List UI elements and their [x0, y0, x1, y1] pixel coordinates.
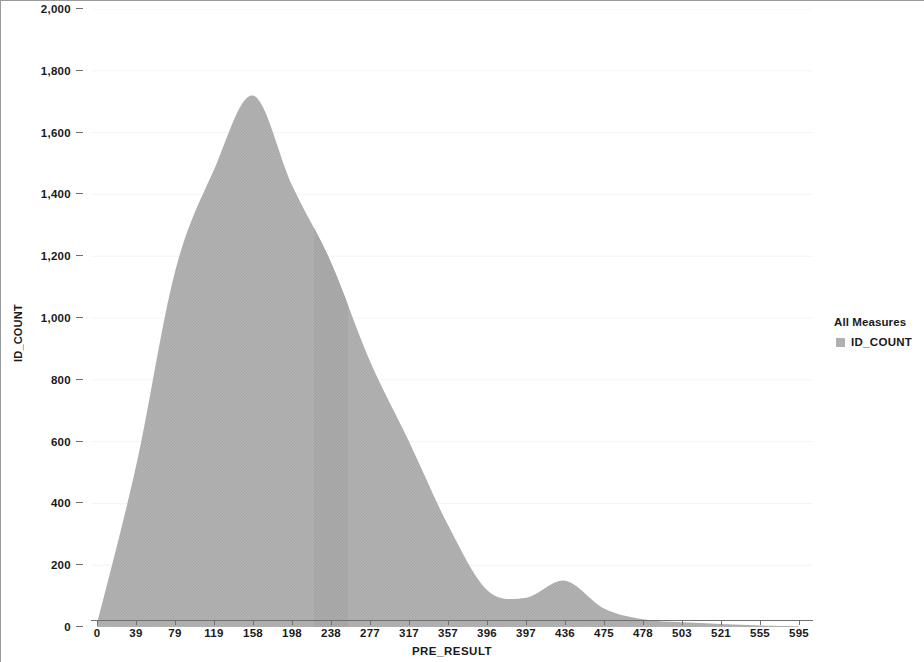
x-axis-tick-mark: [253, 620, 254, 625]
y-axis-tick-labels: 02004006008001,0001,2001,4001,6001,8002,…: [21, 1, 83, 662]
x-axis-tick-label: 436: [555, 627, 575, 639]
x-axis-tick-label: 0: [94, 627, 101, 639]
y-axis-tick-mark: [76, 379, 83, 380]
area-chart-figure: ID_COUNT 02004006008001,0001,2001,4001,6…: [0, 0, 924, 662]
y-axis-tick: 1,000: [21, 311, 83, 325]
x-axis-tick-label: 555: [750, 627, 770, 639]
x-axis-tick-label: 238: [321, 627, 341, 639]
y-axis-tick-mark: [76, 317, 83, 318]
series-group: [97, 95, 799, 627]
y-axis-tick-label: 1,000: [41, 312, 71, 324]
x-axis-tick-label: 158: [243, 627, 263, 639]
legend-item-label: ID_COUNT: [851, 336, 912, 348]
x-axis-tick-mark: [97, 620, 98, 625]
x-axis-tick-mark: [136, 620, 137, 625]
y-axis-tick-label: 200: [51, 559, 71, 571]
x-axis-tick-label: 317: [399, 627, 419, 639]
x-axis-tick-mark: [409, 620, 410, 625]
y-axis-tick-mark: [76, 502, 83, 503]
x-axis-tick-mark: [487, 620, 488, 625]
x-axis-tick-label: 503: [672, 627, 692, 639]
x-axis-tick-mark: [604, 620, 605, 625]
x-axis-tick-mark: [682, 620, 683, 625]
series-area-id-count: [91, 9, 813, 627]
y-axis-tick: 1,800: [21, 64, 83, 78]
x-axis-title: PRE_RESULT: [91, 645, 813, 657]
x-axis-tick-mark: [721, 620, 722, 625]
y-axis-tick: 1,400: [21, 187, 83, 201]
area-fill: [97, 95, 799, 627]
x-axis-tick-mark: [175, 620, 176, 625]
y-axis-tick-mark: [76, 255, 83, 256]
y-axis-tick-label: 1,200: [41, 250, 71, 262]
legend-color-swatch-icon: [836, 338, 845, 347]
plot-area: [91, 9, 813, 627]
y-axis-tick-mark: [76, 70, 83, 71]
y-axis-tick: 1,600: [21, 126, 83, 140]
y-axis-tick-label: 1,400: [41, 188, 71, 200]
x-axis-ticks: 0397911915819823827731735739639743647547…: [91, 620, 813, 644]
y-axis-tick-mark: [76, 132, 83, 133]
x-axis-tick-label: 475: [594, 627, 614, 639]
legend-title: All Measures: [834, 316, 922, 328]
x-axis-tick-label: 595: [789, 627, 809, 639]
y-axis-tick-mark: [76, 193, 83, 194]
x-axis-tick-mark: [565, 620, 566, 625]
y-axis-tick-mark: [76, 8, 83, 9]
y-axis-tick-mark: [76, 564, 83, 565]
y-axis-tick-label: 1,600: [41, 127, 71, 139]
x-axis-tick-label: 277: [360, 627, 380, 639]
y-axis-tick-label: 2,000: [41, 3, 71, 15]
y-axis-tick-mark: [76, 626, 83, 627]
y-axis-tick-label: 400: [51, 497, 71, 509]
y-axis-tick: 200: [21, 558, 83, 572]
y-axis-tick: 0: [21, 620, 83, 634]
y-axis-tick: 2,000: [21, 2, 83, 16]
x-axis-tick-label: 397: [516, 627, 536, 639]
x-axis-tick-mark: [448, 620, 449, 625]
x-axis-tick-label: 478: [633, 627, 653, 639]
y-axis-tick: 1,200: [21, 249, 83, 263]
x-axis-tick-mark: [292, 620, 293, 625]
x-axis-tick-label: 39: [129, 627, 142, 639]
y-axis-tick-label: 1,800: [41, 65, 71, 77]
y-axis-tick-mark: [76, 441, 83, 442]
x-axis-tick-mark: [799, 620, 800, 625]
y-axis-tick-label: 800: [51, 374, 71, 386]
x-axis-tick-label: 396: [477, 627, 497, 639]
x-axis-tick-mark: [526, 620, 527, 625]
y-axis-tick: 600: [21, 435, 83, 449]
x-axis-tick-mark: [214, 620, 215, 625]
x-axis-tick-label: 521: [711, 627, 731, 639]
y-axis-tick-label: 600: [51, 436, 71, 448]
y-axis-tick-label: 0: [64, 621, 71, 633]
x-axis-tick-label: 79: [168, 627, 181, 639]
legend-item-id-count[interactable]: ID_COUNT: [836, 336, 922, 348]
x-axis-tick-mark: [370, 620, 371, 625]
x-axis-tick-label: 119: [204, 627, 223, 639]
x-axis-tick-label: 357: [438, 627, 458, 639]
x-axis-tick-mark: [760, 620, 761, 625]
legend: All Measures ID_COUNT: [834, 316, 922, 348]
x-axis-tick-mark: [331, 620, 332, 625]
y-axis-tick: 400: [21, 496, 83, 510]
x-axis-tick-label: 198: [282, 627, 302, 639]
x-axis-tick-mark: [643, 620, 644, 625]
y-axis-tick: 800: [21, 373, 83, 387]
